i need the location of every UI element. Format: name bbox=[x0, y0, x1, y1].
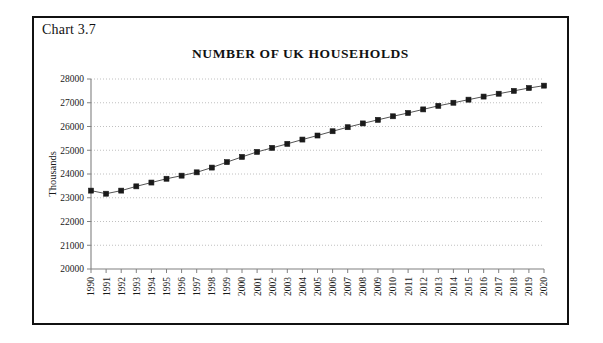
x-axis-tick-label: 2013 bbox=[434, 277, 444, 296]
data-point-marker bbox=[104, 191, 109, 196]
x-axis-tick-label: 2019 bbox=[524, 277, 534, 296]
data-point-marker bbox=[194, 170, 199, 175]
y-axis-tick-label: 21000 bbox=[60, 241, 84, 251]
x-axis-tick-label: 2001 bbox=[253, 277, 263, 296]
x-axis-tick-label: 1996 bbox=[177, 277, 187, 296]
data-point-marker bbox=[224, 160, 229, 165]
data-point-marker bbox=[315, 133, 320, 138]
x-axis-tick-label: 1993 bbox=[132, 277, 142, 296]
x-axis-tick-label: 1998 bbox=[207, 277, 217, 296]
data-point-marker bbox=[406, 110, 411, 115]
data-point-marker bbox=[451, 100, 456, 105]
data-point-marker bbox=[436, 103, 441, 108]
data-point-marker bbox=[285, 141, 290, 146]
x-axis-tick-label: 2005 bbox=[313, 277, 323, 296]
data-point-marker bbox=[360, 121, 365, 126]
y-axis-tick-label: 25000 bbox=[60, 146, 84, 156]
data-point-marker bbox=[164, 176, 169, 181]
data-point-marker bbox=[300, 137, 305, 142]
x-axis-tick-label: 1995 bbox=[162, 277, 172, 296]
x-axis-tick-label: 2009 bbox=[373, 277, 383, 296]
x-axis-tick-label: 2004 bbox=[298, 277, 308, 296]
data-point-marker bbox=[481, 94, 486, 99]
data-point-marker bbox=[345, 125, 350, 130]
y-axis-tick-label: 27000 bbox=[60, 98, 84, 108]
data-point-marker bbox=[526, 86, 531, 91]
y-axis-tick-label: 28000 bbox=[60, 74, 84, 84]
x-axis-tick-label: 2011 bbox=[404, 277, 414, 296]
data-point-marker bbox=[496, 91, 501, 96]
data-point-marker bbox=[375, 117, 380, 122]
data-point-marker bbox=[270, 145, 275, 150]
y-axis-tick-label: 26000 bbox=[60, 122, 84, 132]
x-axis-tick-label: 1990 bbox=[86, 277, 96, 296]
x-axis-tick-label: 1999 bbox=[222, 277, 232, 296]
x-axis-tick-label: 2017 bbox=[494, 277, 504, 296]
x-axis-tick-label: 2002 bbox=[268, 277, 278, 296]
y-axis-tick-label: 24000 bbox=[60, 169, 84, 179]
data-point-marker bbox=[89, 188, 94, 193]
data-point-marker bbox=[240, 154, 245, 159]
x-axis-tick-label: 2003 bbox=[283, 277, 293, 296]
y-axis-tick-label: 23000 bbox=[60, 193, 84, 203]
x-axis-tick-label: 2018 bbox=[509, 277, 519, 296]
data-point-marker bbox=[542, 83, 547, 88]
x-axis-tick-label: 2008 bbox=[358, 277, 368, 296]
chart-figure: Chart 3.7 NUMBER OF UK HOUSEHOLDS 200002… bbox=[32, 16, 569, 325]
data-point-marker bbox=[255, 149, 260, 154]
x-axis-tick-label: 2016 bbox=[479, 277, 489, 296]
line-chart-plot: 2000021000220002300024000250002600027000… bbox=[34, 18, 571, 327]
y-axis-title: Thousands bbox=[47, 151, 58, 197]
x-axis-tick-label: 1992 bbox=[117, 277, 127, 296]
data-point-marker bbox=[134, 184, 139, 189]
data-point-marker bbox=[179, 173, 184, 178]
y-axis-tick-label: 20000 bbox=[60, 264, 84, 274]
x-axis-tick-label: 2012 bbox=[419, 277, 429, 296]
data-point-marker bbox=[511, 88, 516, 93]
data-point-marker bbox=[209, 165, 214, 170]
x-axis-tick-label: 2015 bbox=[464, 277, 474, 296]
x-axis-tick-label: 2010 bbox=[388, 277, 398, 296]
data-point-marker bbox=[421, 107, 426, 112]
y-axis-tick-label: 22000 bbox=[60, 217, 84, 227]
x-axis-tick-label: 1994 bbox=[147, 277, 157, 296]
x-axis-tick-label: 1997 bbox=[192, 277, 202, 296]
x-axis-tick-label: 2006 bbox=[328, 277, 338, 296]
data-point-marker bbox=[119, 188, 124, 193]
data-point-marker bbox=[466, 97, 471, 102]
x-axis-tick-label: 2000 bbox=[237, 277, 247, 296]
x-axis-tick-label: 1991 bbox=[102, 277, 112, 296]
data-point-marker bbox=[391, 114, 396, 119]
x-axis-tick-label: 2020 bbox=[539, 277, 549, 296]
x-axis-tick-label: 2014 bbox=[449, 277, 459, 296]
data-point-marker bbox=[149, 180, 154, 185]
series-line bbox=[91, 86, 544, 194]
x-axis-tick-label: 2007 bbox=[343, 277, 353, 296]
data-point-marker bbox=[330, 129, 335, 134]
